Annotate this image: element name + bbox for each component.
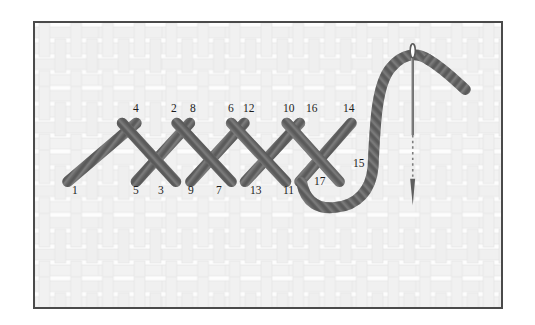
needle-point <box>410 179 415 206</box>
needle-eye <box>410 44 415 58</box>
stitch-point-label: 14 <box>343 103 355 115</box>
stitch-point-label: 12 <box>243 103 255 115</box>
stitch-point-label: 10 <box>283 103 295 115</box>
stitch-point-label: 8 <box>190 103 196 115</box>
stitch-point-label: 9 <box>188 185 194 197</box>
stitch-point-label: 13 <box>250 185 262 197</box>
stitch-point-label: 5 <box>133 185 139 197</box>
stitch-diagram-figure: 4 2 8 6 12 10 16 14 1 5 3 9 7 13 11 17 1… <box>0 0 535 325</box>
stitch-point-label: 2 <box>171 103 177 115</box>
stitch-point-label: 7 <box>216 185 222 197</box>
stitch-point-label: 17 <box>314 176 326 188</box>
stitch-point-label: 1 <box>72 185 78 197</box>
stitch-point-label: 4 <box>133 103 139 115</box>
stitch-point-label: 3 <box>158 185 164 197</box>
stitch-point-label: 16 <box>306 103 318 115</box>
stitch-point-label: 15 <box>353 158 365 170</box>
stitch-point-label: 11 <box>283 185 294 197</box>
thread-tail <box>429 60 466 90</box>
fabric-frame <box>33 21 503 309</box>
needle <box>410 44 415 206</box>
stitch-artwork <box>35 23 501 309</box>
stitch-point-label: 6 <box>228 103 234 115</box>
